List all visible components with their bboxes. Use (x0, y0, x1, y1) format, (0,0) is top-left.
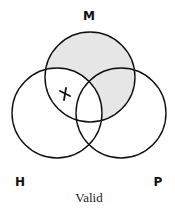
caption: Valid (75, 190, 103, 205)
label-p: P (154, 175, 163, 189)
shaded-region (0, 0, 175, 219)
label-m: M (83, 9, 95, 23)
label-h: H (15, 175, 25, 189)
venn-diagram: M H P Valid (0, 0, 175, 219)
